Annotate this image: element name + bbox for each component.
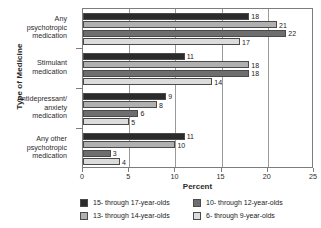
legend-item: 13- through 14-year-olds <box>80 209 193 222</box>
category-label: Antidepressant/anxietymedication <box>0 95 71 121</box>
bar-value-label: 6 <box>138 110 144 117</box>
x-axis-tick-label: 5 <box>126 172 130 181</box>
bar <box>83 101 157 108</box>
bar-row: 11 <box>83 53 314 60</box>
plot-area: 18212217111818149865111034 <box>82 8 313 168</box>
bar-value-label: 18 <box>249 70 259 77</box>
legend-label: 15- through 17-year-olds <box>93 199 170 206</box>
category-label: Anypsychotropicmedication <box>0 15 71 41</box>
x-axis-tick-label: 20 <box>263 172 271 181</box>
bar-value-label: 17 <box>240 38 250 45</box>
bar-row: 22 <box>83 30 314 37</box>
bar-value-label: 9 <box>166 93 172 100</box>
x-axis-tick-label: 10 <box>170 172 178 181</box>
bar <box>83 30 286 37</box>
bar <box>83 21 277 28</box>
bar-row: 4 <box>83 158 314 165</box>
legend-label: 13- through 14-year-olds <box>93 212 170 219</box>
legend-swatch <box>193 199 201 207</box>
bar-row: 18 <box>83 13 314 20</box>
category-tick <box>76 48 82 49</box>
bar-row: 5 <box>83 118 314 125</box>
bar <box>83 133 185 140</box>
category-tick <box>76 88 82 89</box>
legend-item: 6- through 9-year-olds <box>193 209 312 222</box>
bar-chart: Type of Medicine 18212217111818149865111… <box>0 0 321 228</box>
bar-value-label: 10 <box>175 141 185 148</box>
bar-row: 9 <box>83 93 314 100</box>
bar <box>83 13 249 20</box>
bar-row: 6 <box>83 110 314 117</box>
bar <box>83 93 166 100</box>
bar <box>83 38 240 45</box>
bar-value-label: 18 <box>249 61 259 68</box>
bar-value-label: 8 <box>157 101 163 108</box>
category-label: Any otherpsychotropicmedication <box>0 135 71 161</box>
bar-row: 18 <box>83 61 314 68</box>
bar-value-label: 14 <box>212 78 222 85</box>
bar-row: 14 <box>83 78 314 85</box>
bar <box>83 70 249 77</box>
category-label-line: medication <box>0 68 67 77</box>
bar-value-label: 3 <box>111 150 117 157</box>
bar-row: 8 <box>83 101 314 108</box>
bar-row: 3 <box>83 150 314 157</box>
bar-value-label: 21 <box>277 21 287 28</box>
bar <box>83 150 111 157</box>
legend-label: 6- through 9-year-olds <box>206 212 275 219</box>
legend-swatch <box>193 212 201 220</box>
bar <box>83 158 120 165</box>
bar-row: 21 <box>83 21 314 28</box>
category-tick <box>76 128 82 129</box>
bar <box>83 61 249 68</box>
bar-value-label: 4 <box>120 158 126 165</box>
bar <box>83 53 185 60</box>
bar <box>83 78 212 85</box>
legend-swatch <box>80 212 88 220</box>
category-label: Stimulantmedication <box>0 59 71 76</box>
bar-value-label: 11 <box>185 53 194 60</box>
bar-value-label: 22 <box>286 30 296 37</box>
bar-row: 11 <box>83 133 314 140</box>
category-label-line: medication <box>0 112 67 121</box>
bar-value-label: 18 <box>249 13 259 20</box>
legend-item: 15- through 17-year-olds <box>80 196 193 209</box>
legend-label: 10- through 12-year-olds <box>206 199 283 206</box>
category-label-line: medication <box>0 152 67 161</box>
bar <box>83 110 138 117</box>
bar-row: 10 <box>83 141 314 148</box>
bar-row: 17 <box>83 38 314 45</box>
legend-swatch <box>80 199 88 207</box>
bar-value-label: 5 <box>129 118 135 125</box>
x-axis-tick-label: 15 <box>217 172 225 181</box>
x-axis-title: Percent <box>82 182 313 191</box>
x-axis-tick-label: 0 <box>80 172 84 181</box>
bar-row: 18 <box>83 70 314 77</box>
bar <box>83 118 129 125</box>
bar-value-label: 11 <box>185 133 194 140</box>
category-label-line: medication <box>0 32 67 41</box>
chart-legend: 15- through 17-year-olds10- through 12-y… <box>80 196 312 222</box>
legend-item: 10- through 12-year-olds <box>193 196 312 209</box>
x-axis-tick-label: 25 <box>309 172 317 181</box>
bar <box>83 141 175 148</box>
